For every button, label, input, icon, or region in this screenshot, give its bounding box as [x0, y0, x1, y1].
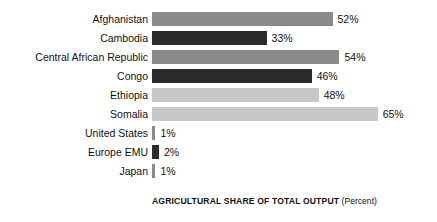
category-label: Europe EMU: [88, 146, 148, 158]
bar: [152, 126, 155, 140]
bar-row: Congo46%: [0, 66, 437, 85]
plot-area: Afghanistan52%Cambodia33%Central African…: [0, 9, 437, 181]
bar: [152, 145, 159, 159]
bar-row: Central African Republic54%: [0, 47, 437, 66]
bar-track: [152, 88, 319, 102]
bar-row: Cambodia33%: [0, 28, 437, 47]
bar: [152, 107, 378, 121]
bar: [152, 88, 319, 102]
bar-track: [152, 31, 267, 45]
bar-value-label: 65%: [383, 108, 404, 120]
bar-track: [152, 69, 312, 83]
x-axis-title-main: AGRICULTURAL SHARE OF TOTAL OUTPUT: [152, 196, 339, 206]
bar-value-label: 33%: [272, 32, 293, 44]
bar-row: Europe EMU2%: [0, 143, 437, 162]
category-label: Cambodia: [100, 32, 148, 44]
bar-row: Somalia65%: [0, 104, 437, 123]
bar-row: Ethiopia48%: [0, 85, 437, 104]
bar-track: [152, 145, 159, 159]
bar: [152, 164, 155, 178]
category-label: Congo: [117, 70, 148, 82]
bar-value-label: 52%: [338, 13, 359, 25]
category-label: Afghanistan: [93, 13, 148, 25]
category-label: Ethiopia: [110, 89, 148, 101]
bar-row: Japan1%: [0, 162, 437, 181]
category-label: Somalia: [110, 108, 148, 120]
bar-row: United States1%: [0, 124, 437, 143]
bar: [152, 12, 333, 26]
bar-track: [152, 107, 378, 121]
bar: [152, 50, 339, 64]
bar-value-label: 54%: [344, 51, 365, 63]
bar: [152, 69, 312, 83]
bar-row: Afghanistan52%: [0, 9, 437, 28]
bar-track: [152, 12, 333, 26]
bar-track: [152, 50, 339, 64]
bar-track: [152, 126, 155, 140]
bar-value-label: 46%: [317, 70, 338, 82]
bar-value-label: 1%: [160, 165, 175, 177]
category-label: United States: [85, 127, 148, 139]
x-axis-title: AGRICULTURAL SHARE OF TOTAL OUTPUT (Perc…: [152, 196, 377, 206]
x-axis-title-unit: (Percent): [342, 196, 377, 206]
bar-value-label: 1%: [160, 127, 175, 139]
category-label: Central African Republic: [35, 51, 148, 63]
agricultural-share-bar-chart: COUNTRY Afghanistan52%Cambodia33%Central…: [0, 0, 437, 222]
bar-value-label: 48%: [324, 89, 345, 101]
bar: [152, 31, 267, 45]
category-label: Japan: [119, 165, 148, 177]
bar-track: [152, 164, 155, 178]
bar-value-label: 2%: [164, 146, 179, 158]
